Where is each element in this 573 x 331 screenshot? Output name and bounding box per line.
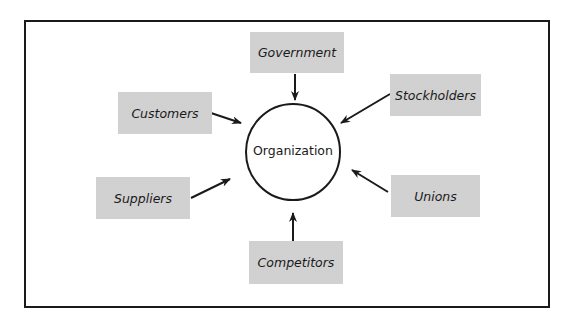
arrow-suppliers	[191, 179, 230, 198]
competitors-box: Competitors	[249, 241, 343, 284]
arrow-customers	[211, 113, 241, 123]
suppliers-box: Suppliers	[96, 177, 190, 219]
arrow-unions	[352, 170, 388, 192]
organization-label: Organization	[246, 143, 340, 158]
unions-box: Unions	[391, 175, 480, 217]
government-box: Government	[250, 32, 344, 73]
stockholders-box: Stockholders	[390, 74, 481, 116]
customers-box: Customers	[118, 92, 212, 134]
arrow-stockholders	[341, 94, 390, 123]
